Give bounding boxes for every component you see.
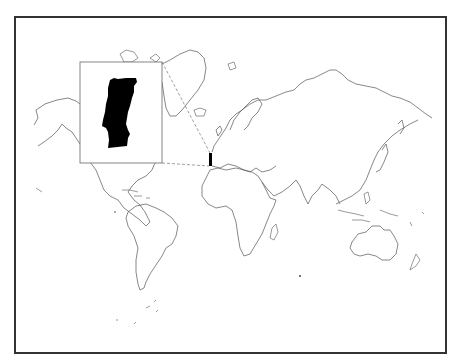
south-atlantic-islands	[116, 300, 158, 324]
africa-outline	[202, 168, 276, 256]
inset-connector-top	[162, 62, 210, 153]
indonesia-islands	[338, 192, 398, 222]
australia-outline	[350, 226, 398, 260]
madagascar-outline	[270, 224, 278, 240]
island-dot	[299, 275, 301, 277]
south-america-outline	[126, 204, 178, 290]
scandinavia-outline	[230, 98, 262, 130]
new-zealand-outline	[410, 254, 420, 270]
greenland-outline	[162, 50, 206, 116]
inset-connector-bottom	[162, 163, 209, 166]
pacific-islands	[36, 188, 424, 226]
iceland-outline	[194, 108, 206, 116]
asia-outline	[266, 70, 432, 204]
world-map	[0, 0, 457, 364]
middle-east-outline	[262, 180, 322, 204]
caribbean-islands	[122, 190, 150, 198]
portugal-marker	[209, 153, 212, 166]
japan-outline	[376, 120, 404, 172]
europe-outline	[212, 100, 276, 172]
island-dot	[114, 211, 116, 213]
